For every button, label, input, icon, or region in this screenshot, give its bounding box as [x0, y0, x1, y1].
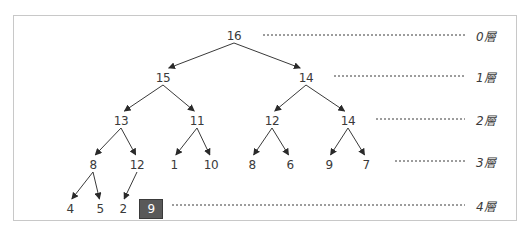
tree-edge — [331, 128, 348, 155]
tree-edge — [348, 128, 365, 155]
tree-node: 13 — [114, 115, 128, 127]
tree-edge — [124, 172, 137, 199]
tree-edge — [124, 85, 163, 111]
tree-edge — [121, 128, 136, 155]
tree-node: 6 — [286, 159, 293, 171]
tree-edge — [72, 172, 93, 199]
tree-node: 7 — [362, 159, 369, 171]
level-label-2: 2層 — [476, 111, 496, 128]
level-label-4: 4層 — [476, 197, 496, 214]
tree-node: 15 — [156, 72, 170, 84]
tree-edge — [197, 128, 210, 155]
tree-node: 1 — [170, 159, 177, 171]
tree-node: 2 — [119, 203, 126, 215]
level-label-3: 3層 — [476, 153, 496, 170]
tree-edge — [169, 43, 234, 68]
tree-node: 8 — [248, 159, 255, 171]
tree-node: 16 — [227, 30, 241, 42]
tree-node: 11 — [190, 115, 204, 127]
tree-edge — [306, 85, 345, 111]
tree-node: 5 — [96, 203, 103, 215]
tree-node: 14 — [299, 72, 313, 84]
highlighted-node: 9 — [139, 199, 163, 219]
level-label-0: 0層 — [476, 27, 496, 44]
tree-node: 4 — [66, 203, 73, 215]
tree-node: 8 — [89, 159, 96, 171]
level-label-1: 1層 — [476, 68, 496, 85]
tree-edge — [176, 128, 197, 155]
tree-node: 12 — [265, 115, 279, 127]
tree-node: 10 — [204, 159, 218, 171]
tree-edge — [275, 85, 306, 111]
tree-edge — [163, 85, 194, 111]
tree-edge — [272, 128, 289, 155]
tree-edge — [234, 43, 300, 68]
tree-edge — [254, 128, 272, 155]
tree-edge — [93, 172, 99, 199]
tree-edge — [95, 128, 121, 155]
tree-node: 14 — [341, 115, 355, 127]
tree-node: 9 — [325, 159, 332, 171]
tree-node: 12 — [130, 159, 144, 171]
